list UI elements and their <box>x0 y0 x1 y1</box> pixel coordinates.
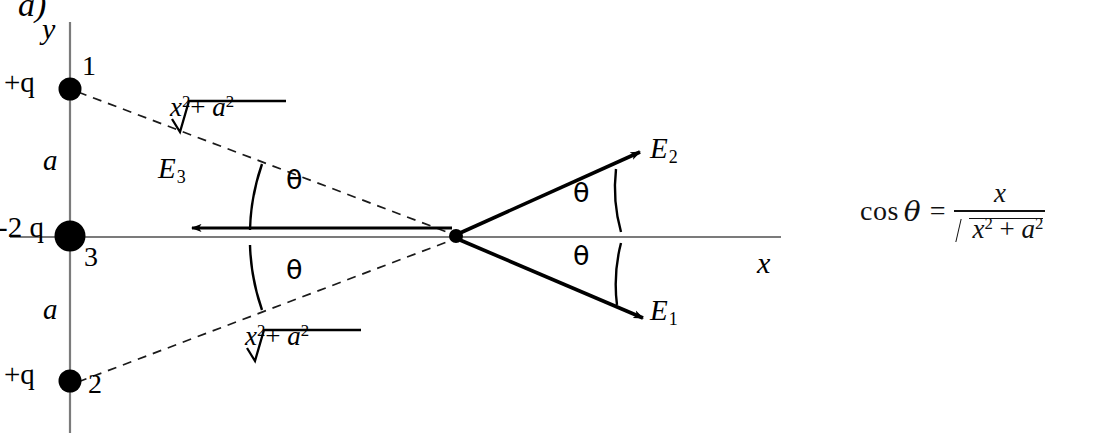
equation-theta-symbol: θ <box>899 195 921 228</box>
field-vector-E1-label: E1 <box>650 296 678 328</box>
distance-upper-a-exponent: 2 <box>226 92 234 111</box>
equation-equals-sign: = <box>921 195 955 227</box>
charge-3-index-label: 3 <box>84 243 98 271</box>
charge-1-index-label: 1 <box>82 52 96 80</box>
field-vector-E2-label: E2 <box>650 134 678 166</box>
dashed-distance-line-charge1 <box>78 92 452 234</box>
equation-den-plus: + <box>1000 214 1015 244</box>
field-E3-symbol: E <box>158 152 176 184</box>
theta-arc-upper-right <box>615 169 621 232</box>
dashed-distance-line-charge2 <box>78 240 452 382</box>
field-E2-subscript: 2 <box>668 147 678 167</box>
charge-1-value-label: +q <box>4 68 35 97</box>
cosine-equation: cosθ= x x2 + a2 <box>860 178 1045 245</box>
charge-2-index-label: 2 <box>88 370 102 398</box>
equation-den-x: x <box>972 214 984 244</box>
distance-upper-x: x <box>170 92 182 122</box>
y-axis-label: y <box>42 14 55 44</box>
equation-cos-function: cos <box>860 195 899 227</box>
charge-2-value-label: +q <box>4 360 35 389</box>
field-E1-subscript: 1 <box>668 309 678 329</box>
distance-lower-plus: + <box>265 321 280 351</box>
equation-den-x-exponent: 2 <box>984 214 992 233</box>
field-E2-symbol: E <box>650 132 668 164</box>
angle-label-lower-left: θ <box>286 256 303 283</box>
distance-upper-plus: + <box>190 92 205 122</box>
field-E3-subscript: 3 <box>176 167 186 187</box>
angle-label-upper-right: θ <box>573 179 590 206</box>
equation-fraction: x x2 + a2 <box>954 178 1045 245</box>
field-vector-E3-label: E3 <box>158 154 186 186</box>
theta-arc-upper-left <box>250 164 262 230</box>
distance-lower-a-exponent: 2 <box>301 321 309 340</box>
equation-denominator: x2 + a2 <box>954 212 1045 245</box>
x-axis-label: x <box>757 248 770 278</box>
charge-dot-2 <box>59 370 82 393</box>
angle-label-lower-right: θ <box>573 242 590 269</box>
physics-figure-canvas: a) y x +q 1 -2 q 3 +q 2 a a x2+ a2 x2+ a… <box>0 0 1107 439</box>
angle-label-upper-left: θ <box>286 166 303 193</box>
equation-numerator: x <box>988 178 1012 210</box>
separation-label-lower: a <box>43 295 58 324</box>
distance-label-upper: x2+ a2 <box>170 94 234 121</box>
field-vector-E2-arrow <box>460 152 640 233</box>
distance-lower-a: a <box>287 321 301 351</box>
equation-den-a: a <box>1022 214 1036 244</box>
theta-arc-lower-left <box>250 245 262 310</box>
theta-arc-lower-right <box>616 243 621 305</box>
equation-radical-icon: x2 + a2 <box>956 214 1043 245</box>
equation-den-a-exponent: 2 <box>1035 214 1043 233</box>
distance-lower-x: x <box>245 321 257 351</box>
separation-label-upper: a <box>43 146 58 175</box>
distance-label-lower: x2+ a2 <box>245 323 309 350</box>
charge-dot-1 <box>59 78 82 101</box>
charge-dot-3 <box>55 221 86 252</box>
charge-3-value-label: -2 q <box>0 213 44 242</box>
field-E1-symbol: E <box>650 294 668 326</box>
distance-upper-a: a <box>212 92 226 122</box>
